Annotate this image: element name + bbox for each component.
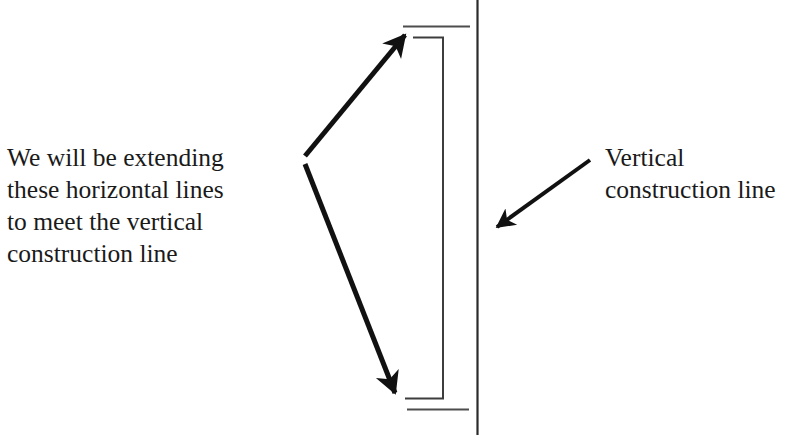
construction-line-callout-arrow (497, 160, 590, 227)
diagram-canvas: We will be extending these horizontal li… (0, 0, 811, 435)
thin-construction-geometry (403, 27, 470, 410)
leader-arrows (305, 35, 405, 393)
lower-leader-arrow (305, 164, 395, 393)
upper-leader-arrow (305, 35, 405, 156)
extending-horizontal-lines-note: We will be extending these horizontal li… (7, 142, 307, 270)
vertical-construction-line-label: Vertical construction line (605, 142, 811, 206)
